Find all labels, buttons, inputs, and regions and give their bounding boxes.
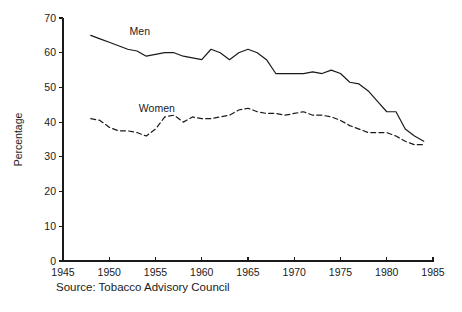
y-tick-label: 30 [44,150,56,162]
y-axis-title: Percentage [12,112,24,166]
y-tick-label: 40 [44,116,56,128]
series-lines [91,35,424,144]
x-tick-label: 1960 [190,266,214,278]
series-annotation-women: Women [139,102,175,114]
chart-labels: 0102030405060701945195019551960196519701… [12,12,445,293]
series-annotation-men: Men [130,25,151,37]
x-tick-label: 1945 [51,266,75,278]
y-tick-label: 0 [50,255,56,267]
source-caption: Source: Tobacco Advisory Council [56,281,230,293]
x-tick-label: 1980 [375,266,399,278]
y-tick-label: 10 [44,220,56,232]
x-tick-label: 1965 [236,266,260,278]
x-tick-label: 1950 [98,266,122,278]
y-tick-label: 50 [44,81,56,93]
x-tick-label: 1975 [329,266,353,278]
axes [59,18,434,262]
x-tick-label: 1970 [283,266,307,278]
smoking-prevalence-chart: 0102030405060701945195019551960196519701… [0,0,462,312]
y-tick-label: 60 [44,46,56,58]
x-tick-label: 1985 [421,266,445,278]
chart-canvas: 0102030405060701945195019551960196519701… [0,0,462,312]
y-tick-label: 20 [44,185,56,197]
series-line-men [91,35,424,141]
x-tick-label: 1955 [144,266,168,278]
y-tick-label: 70 [44,12,56,24]
